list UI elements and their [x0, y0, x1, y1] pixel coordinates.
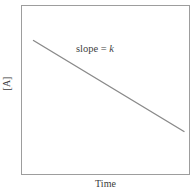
plot-area-frame — [21, 5, 190, 175]
x-axis-label: Time — [21, 178, 190, 188]
slope-annotation-prefix: slope = — [76, 43, 109, 54]
zero-order-kinetics-chart: [A] slope = k Time — [0, 0, 195, 188]
y-axis-label: [A] — [1, 62, 12, 106]
slope-annotation-symbol: k — [109, 43, 114, 54]
slope-annotation: slope = k — [76, 43, 114, 54]
